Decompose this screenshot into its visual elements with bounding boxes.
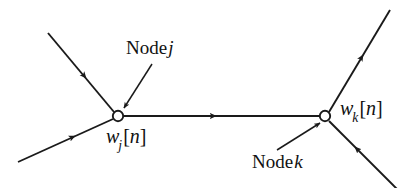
node-k-caption-text: Node: [252, 151, 293, 172]
pointer-line: [277, 123, 320, 150]
weight-j-open-bracket: [: [123, 125, 130, 147]
weight-k-index: n: [366, 97, 376, 119]
weight-j-subscript: j: [118, 138, 122, 153]
pointer-node-j: [124, 64, 152, 108]
graph-canvas: [0, 0, 413, 188]
weight-k-subscript: k: [352, 110, 358, 125]
node-k-caption-variable: k: [293, 151, 302, 172]
pointer-node-k: [277, 123, 320, 150]
node-j-circle: [113, 111, 123, 121]
pointer-line: [124, 64, 152, 108]
node-k-caption: Nodek: [252, 152, 303, 171]
node-k-weight-label: wk[n]: [340, 98, 383, 123]
edge-line: [329, 121, 398, 188]
weight-k-close-bracket: ]: [376, 97, 383, 119]
node-j-weight-label: wj[n]: [106, 126, 146, 151]
weight-j-close-bracket: ]: [140, 125, 147, 147]
edge-line: [18, 119, 113, 162]
weight-j-index: n: [130, 125, 140, 147]
signal-flow-graph-figure: Nodej Nodek wj[n] wk[n]: [0, 0, 413, 188]
node-j-caption-variable: j: [167, 37, 173, 58]
edge-in-upper-left-to-j: [48, 33, 114, 112]
node-j-caption-text: Node: [126, 37, 167, 58]
node-j-caption: Nodej: [126, 38, 173, 57]
edge-in-lower-right-to-k: [329, 121, 398, 188]
node-k-circle: [320, 111, 330, 121]
edge-line: [48, 33, 114, 112]
edge-in-lower-left-to-j: [18, 119, 113, 162]
